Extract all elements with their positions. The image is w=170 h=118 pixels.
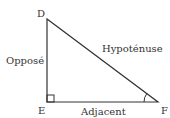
triangle-def	[47, 19, 158, 102]
angle-arc-icon	[144, 94, 147, 102]
side-label-opposite: Opposé	[6, 55, 44, 66]
vertex-label-d: D	[37, 8, 45, 19]
side-label-hypotenuse: Hypoténuse	[102, 43, 163, 54]
right-triangle-diagram: D E F Opposé Hypoténuse Adjacent	[0, 0, 170, 118]
vertex-label-f: F	[161, 105, 168, 116]
side-label-adjacent: Adjacent	[80, 106, 126, 117]
right-angle-marker-icon	[47, 95, 54, 102]
vertex-label-e: E	[38, 105, 45, 116]
